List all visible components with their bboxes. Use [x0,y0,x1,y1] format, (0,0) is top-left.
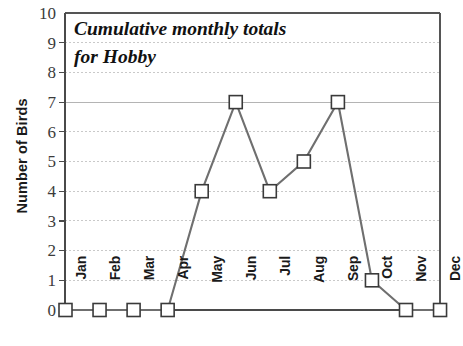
chart-title-line-1: Cumulative monthly totals [74,15,374,43]
chart-title-line-2: for Hobby [74,43,374,71]
x-tick-label-feb: Feb [107,256,123,316]
x-tick-label-jul: Jul [277,256,293,316]
x-tick-label-may: May [209,256,225,316]
chart-title: Cumulative monthly totals for Hobby [74,15,374,72]
x-tick-label-jan: Jan [73,256,89,316]
x-tick-label-nov: Nov [413,256,429,316]
x-tick-label-sep: Sep [345,256,361,316]
x-tick-label-aug: Aug [311,256,327,316]
x-tick-label-jun: Jun [243,256,259,316]
x-tick-label-oct: Oct [379,256,395,316]
x-tick-label-mar: Mar [141,256,157,316]
x-tick-label-apr: Apr [175,256,191,316]
x-tick-label-dec: Dec [447,256,463,316]
